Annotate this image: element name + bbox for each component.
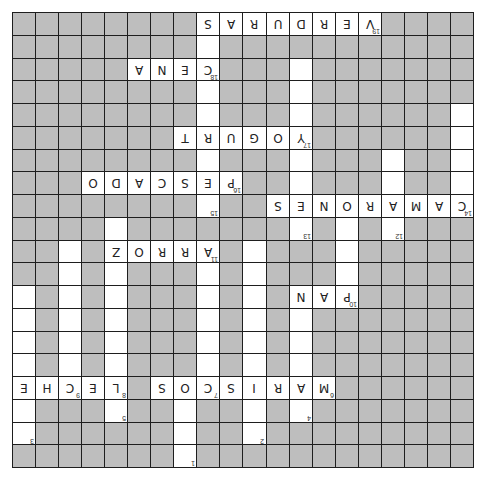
crossword-cell[interactable]: S xyxy=(220,377,242,399)
crossword-cell[interactable]: O xyxy=(82,172,104,194)
crossword-cell[interactable] xyxy=(451,172,473,194)
crossword-cell[interactable]: U xyxy=(267,13,289,35)
crossword-cell[interactable]: E xyxy=(174,59,196,81)
crossword-cell[interactable]: 13 xyxy=(290,218,312,240)
crossword-cell[interactable]: U xyxy=(220,127,242,149)
crossword-cell[interactable] xyxy=(13,400,35,422)
crossword-cell[interactable]: R xyxy=(243,13,265,35)
crossword-cell[interactable] xyxy=(336,241,358,263)
crossword-cell[interactable] xyxy=(197,286,219,308)
crossword-cell[interactable] xyxy=(290,354,312,376)
crossword-cell[interactable] xyxy=(59,309,81,331)
crossword-cell[interactable]: 1 xyxy=(174,445,196,467)
crossword-cell[interactable] xyxy=(59,332,81,354)
crossword-cell[interactable]: R xyxy=(174,241,196,263)
crossword-cell[interactable] xyxy=(243,332,265,354)
crossword-cell[interactable]: D xyxy=(290,13,312,35)
crossword-cell[interactable] xyxy=(59,286,81,308)
crossword-cell[interactable]: N xyxy=(151,59,173,81)
crossword-cell[interactable] xyxy=(59,263,81,285)
crossword-cell[interactable] xyxy=(290,59,312,81)
crossword-cell[interactable]: O xyxy=(174,377,196,399)
crossword-cell[interactable]: A xyxy=(220,13,242,35)
crossword-cell[interactable]: R xyxy=(313,13,335,35)
crossword-cell[interactable]: A xyxy=(290,377,312,399)
crossword-cell[interactable] xyxy=(197,81,219,103)
crossword-cell[interactable]: 10P xyxy=(336,286,358,308)
crossword-cell[interactable]: 18C xyxy=(197,59,219,81)
crossword-cell[interactable]: S xyxy=(267,195,289,217)
crossword-cell[interactable]: S xyxy=(174,172,196,194)
crossword-cell[interactable] xyxy=(13,309,35,331)
crossword-cell[interactable] xyxy=(290,104,312,126)
crossword-cell[interactable]: E xyxy=(82,377,104,399)
crossword-cell[interactable]: M xyxy=(405,195,427,217)
crossword-cell[interactable] xyxy=(197,104,219,126)
crossword-cell[interactable] xyxy=(336,218,358,240)
crossword-cell[interactable] xyxy=(243,400,265,422)
crossword-cell[interactable] xyxy=(243,286,265,308)
crossword-cell[interactable] xyxy=(13,354,35,376)
crossword-cell[interactable]: I xyxy=(243,377,265,399)
crossword-cell[interactable]: A xyxy=(428,195,450,217)
crossword-cell[interactable]: A xyxy=(128,172,150,194)
crossword-cell[interactable] xyxy=(105,286,127,308)
crossword-cell[interactable]: 17Y xyxy=(290,127,312,149)
crossword-cell[interactable] xyxy=(13,286,35,308)
crossword-cell[interactable]: D xyxy=(105,172,127,194)
crossword-cell[interactable]: R xyxy=(359,195,381,217)
crossword-cell[interactable]: O xyxy=(336,195,358,217)
crossword-cell[interactable] xyxy=(290,172,312,194)
crossword-cell[interactable] xyxy=(382,172,404,194)
crossword-cell[interactable]: R xyxy=(151,241,173,263)
crossword-cell[interactable]: E xyxy=(290,195,312,217)
crossword-cell[interactable] xyxy=(290,81,312,103)
crossword-cell[interactable]: 14C xyxy=(451,195,473,217)
crossword-cell[interactable] xyxy=(105,354,127,376)
crossword-cell[interactable] xyxy=(197,332,219,354)
crossword-cell[interactable]: H xyxy=(36,377,58,399)
crossword-cell[interactable] xyxy=(197,354,219,376)
crossword-cell[interactable]: 2 xyxy=(243,423,265,445)
crossword-cell[interactable] xyxy=(59,241,81,263)
crossword-cell[interactable]: 19V xyxy=(359,13,381,35)
crossword-cell[interactable]: G xyxy=(243,127,265,149)
crossword-cell[interactable] xyxy=(451,150,473,172)
crossword-cell[interactable]: 8L xyxy=(105,377,127,399)
crossword-cell[interactable] xyxy=(290,332,312,354)
crossword-cell[interactable] xyxy=(197,263,219,285)
crossword-cell[interactable] xyxy=(243,263,265,285)
crossword-cell[interactable]: E xyxy=(197,172,219,194)
crossword-cell[interactable] xyxy=(336,263,358,285)
crossword-cell[interactable] xyxy=(13,332,35,354)
crossword-cell[interactable] xyxy=(243,309,265,331)
crossword-cell[interactable] xyxy=(382,150,404,172)
crossword-cell[interactable] xyxy=(197,309,219,331)
crossword-cell[interactable]: S xyxy=(197,13,219,35)
crossword-cell[interactable] xyxy=(105,218,127,240)
crossword-cell[interactable]: 9C xyxy=(59,377,81,399)
crossword-cell[interactable] xyxy=(59,354,81,376)
crossword-cell[interactable]: A xyxy=(313,286,335,308)
crossword-cell[interactable] xyxy=(290,150,312,172)
crossword-cell[interactable]: A xyxy=(382,195,404,217)
crossword-cell[interactable]: 11A xyxy=(197,241,219,263)
crossword-cell[interactable]: S xyxy=(151,377,173,399)
crossword-cell[interactable]: 4 xyxy=(290,400,312,422)
crossword-cell[interactable]: A xyxy=(128,59,150,81)
crossword-cell[interactable]: Z xyxy=(105,241,127,263)
crossword-cell[interactable] xyxy=(174,423,196,445)
crossword-cell[interactable]: 6M xyxy=(313,377,335,399)
crossword-cell[interactable] xyxy=(197,36,219,58)
crossword-cell[interactable] xyxy=(451,127,473,149)
crossword-cell[interactable]: O xyxy=(267,127,289,149)
crossword-cell[interactable]: N xyxy=(313,195,335,217)
crossword-cell[interactable]: R xyxy=(267,377,289,399)
crossword-cell[interactable]: O xyxy=(128,241,150,263)
crossword-cell[interactable] xyxy=(290,309,312,331)
crossword-cell[interactable]: T xyxy=(174,127,196,149)
crossword-cell[interactable]: C xyxy=(151,172,173,194)
crossword-cell[interactable]: 5 xyxy=(105,400,127,422)
crossword-cell[interactable] xyxy=(174,400,196,422)
crossword-cell[interactable]: 3 xyxy=(13,423,35,445)
